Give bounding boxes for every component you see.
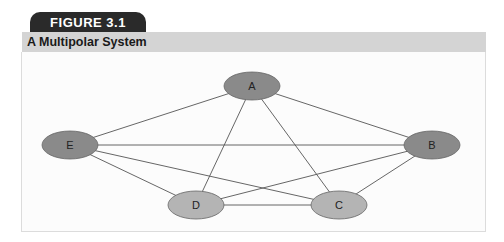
diagram-edges: [70, 86, 432, 205]
diagram-nodes: ABCDE: [42, 72, 460, 219]
edge-b-d: [196, 145, 432, 205]
edge-a-d: [196, 86, 252, 205]
multipolar-diagram: ABCDE: [0, 0, 504, 242]
node-c: C: [311, 191, 367, 219]
node-label: C: [335, 199, 343, 211]
node-d: D: [168, 191, 224, 219]
node-b: B: [404, 131, 460, 159]
node-label: D: [192, 199, 200, 211]
edge-a-e: [70, 86, 252, 145]
node-label: A: [248, 80, 256, 92]
node-label: B: [428, 139, 435, 151]
node-e: E: [42, 131, 98, 159]
node-a: A: [224, 72, 280, 100]
edge-a-b: [252, 86, 432, 145]
node-label: E: [66, 139, 73, 151]
